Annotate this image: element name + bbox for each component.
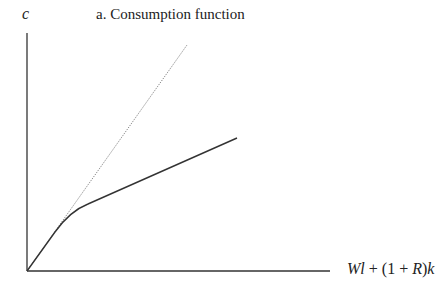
- x-axis-label: Wl + (1 + R)k: [347, 260, 434, 278]
- consumption-function-line: [27, 138, 237, 271]
- x-label-k: k: [427, 260, 434, 277]
- y-axis-label: c: [22, 5, 29, 23]
- consumption-chart: [0, 0, 443, 297]
- x-label-r: R: [412, 260, 422, 277]
- x-label-middle: + (1 +: [365, 260, 412, 277]
- x-label-wl: Wl: [347, 260, 365, 277]
- chart-title: a. Consumption function: [96, 6, 245, 23]
